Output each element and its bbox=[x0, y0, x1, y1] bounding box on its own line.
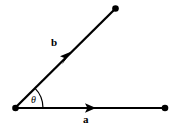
vector-a-label: a bbox=[83, 114, 89, 125]
vector-a-endpoint-dot bbox=[162, 105, 169, 112]
angle-theta-label: θ bbox=[31, 95, 36, 105]
angle-arc bbox=[35, 88, 43, 108]
vector-b-label: b bbox=[51, 37, 57, 48]
diagram-svg bbox=[0, 0, 177, 131]
origin-vertex-dot bbox=[12, 105, 19, 112]
vector-angle-diagram: b a θ bbox=[0, 0, 177, 131]
vector-b-endpoint-dot bbox=[112, 5, 119, 12]
